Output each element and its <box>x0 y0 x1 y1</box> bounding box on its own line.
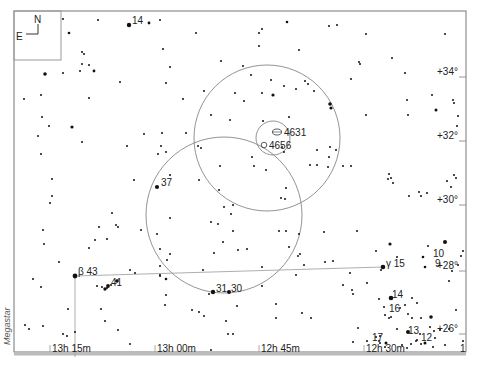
star <box>378 298 380 300</box>
star <box>422 256 425 259</box>
star <box>210 114 212 116</box>
star <box>329 106 332 109</box>
star <box>418 191 420 193</box>
star <box>342 165 344 167</box>
star <box>185 132 187 134</box>
star <box>424 266 427 269</box>
star <box>286 21 289 24</box>
star <box>390 177 392 179</box>
star <box>37 135 39 137</box>
star <box>350 165 352 167</box>
star <box>23 98 25 100</box>
star <box>446 180 448 182</box>
star <box>253 165 255 167</box>
star <box>328 102 332 106</box>
star <box>237 249 239 251</box>
star <box>42 229 44 231</box>
star <box>119 81 121 83</box>
star <box>67 308 69 310</box>
star <box>219 165 221 167</box>
star <box>453 174 455 176</box>
star <box>74 331 76 333</box>
star <box>406 347 408 349</box>
star <box>365 114 367 116</box>
star <box>335 149 337 151</box>
star <box>106 284 110 288</box>
star <box>283 151 285 153</box>
star <box>134 272 136 274</box>
star <box>213 252 215 254</box>
star <box>271 93 274 96</box>
star <box>443 240 447 244</box>
star <box>106 238 108 240</box>
star <box>70 125 73 128</box>
star <box>81 141 83 143</box>
star <box>117 226 119 228</box>
star <box>165 278 168 281</box>
star <box>165 151 167 153</box>
star <box>432 346 434 348</box>
star <box>169 217 171 219</box>
star <box>275 303 277 305</box>
star <box>198 179 200 181</box>
star-16-label: 16 <box>389 303 401 314</box>
star <box>159 19 161 21</box>
star <box>218 189 220 191</box>
star <box>104 320 106 322</box>
compass-north-label: N <box>34 14 41 25</box>
star <box>434 337 436 339</box>
star-gamma-15-label: γ 15 <box>386 258 405 269</box>
compass-east-label: E <box>16 31 23 42</box>
star <box>159 274 161 276</box>
star <box>285 230 287 232</box>
star <box>433 330 435 332</box>
star <box>275 317 277 319</box>
star <box>450 186 452 188</box>
star <box>408 195 410 197</box>
star <box>101 286 103 288</box>
star <box>390 316 392 318</box>
star <box>452 99 454 101</box>
star <box>270 79 272 81</box>
star <box>242 65 244 67</box>
star <box>404 304 406 306</box>
star <box>129 343 131 345</box>
star <box>407 313 409 315</box>
star <box>429 315 433 319</box>
star <box>41 116 43 118</box>
star <box>352 341 354 343</box>
dec-tick-label-34: +34° <box>437 66 458 77</box>
star <box>307 83 309 85</box>
star <box>143 133 145 135</box>
star <box>111 212 113 214</box>
star <box>96 285 98 287</box>
star <box>197 145 199 147</box>
star <box>246 248 248 250</box>
ra-tick-label-1245: 12h 45m <box>261 343 300 354</box>
star <box>460 255 462 257</box>
star <box>350 78 352 80</box>
star <box>83 53 85 55</box>
star <box>351 289 353 291</box>
star <box>349 272 351 274</box>
star <box>295 88 297 90</box>
star <box>327 166 329 168</box>
star <box>316 164 318 166</box>
star <box>129 269 131 271</box>
dso-4631-label: 4631 <box>284 127 307 138</box>
star <box>100 308 102 310</box>
star <box>58 261 60 263</box>
star <box>117 329 119 331</box>
star <box>133 179 135 181</box>
star <box>411 297 413 299</box>
star <box>261 285 263 287</box>
star <box>49 202 51 204</box>
star <box>288 116 290 118</box>
star <box>406 99 408 101</box>
star <box>342 284 344 286</box>
star <box>51 195 53 197</box>
star <box>232 333 234 335</box>
star <box>324 261 326 263</box>
dec-tick-label-28: +28° <box>437 260 458 271</box>
star <box>427 245 429 247</box>
